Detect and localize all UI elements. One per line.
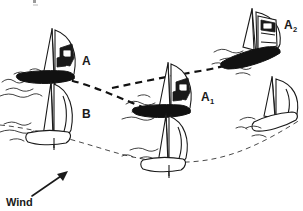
boat-a2-label-base: A [284, 18, 293, 32]
boat-b-label: B [82, 107, 91, 121]
boat-a2-label-sub: 2 [293, 25, 297, 34]
wind-label: Wind [6, 196, 33, 208]
boat-a-label: A [82, 54, 91, 68]
top-edge-artifact-2 [33, 4, 38, 6]
boat-a1-label-sub: 1 [210, 97, 214, 106]
diagram-canvas: A B [0, 0, 303, 211]
boat-a1-label-base: A [201, 90, 210, 104]
sailing-tactics-diagram: A B [0, 0, 303, 211]
top-edge-artifact [33, 0, 36, 3]
